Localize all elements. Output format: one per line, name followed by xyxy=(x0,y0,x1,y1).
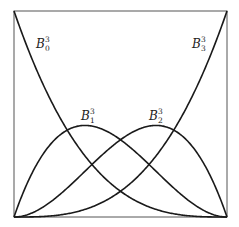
svg-text:3: 3 xyxy=(90,107,95,116)
svg-text:0: 0 xyxy=(45,44,50,53)
svg-text:3: 3 xyxy=(158,107,163,116)
labels-group: B30B31B32B33 xyxy=(35,35,206,125)
label-b0: B30 xyxy=(35,35,50,53)
label-b2: B32 xyxy=(148,107,163,125)
svg-text:1: 1 xyxy=(90,116,95,125)
curve-b2 xyxy=(14,125,227,217)
label-b3: B33 xyxy=(191,35,206,53)
svg-text:3: 3 xyxy=(45,35,50,44)
svg-text:B: B xyxy=(80,109,90,123)
svg-text:2: 2 xyxy=(158,116,163,125)
bernstein-diagram: B30B31B32B33 xyxy=(0,0,239,227)
svg-text:B: B xyxy=(35,37,45,51)
label-b1: B31 xyxy=(80,107,95,125)
svg-text:B: B xyxy=(148,109,158,123)
svg-text:B: B xyxy=(191,37,201,51)
svg-text:3: 3 xyxy=(201,44,206,53)
svg-text:3: 3 xyxy=(201,35,206,44)
